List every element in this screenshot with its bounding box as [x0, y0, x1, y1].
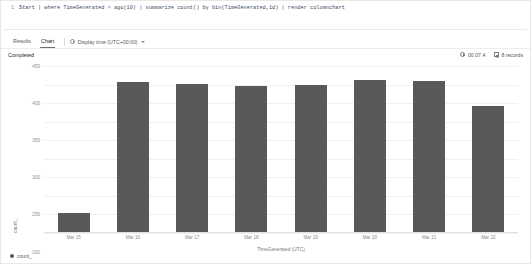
- legend-marker-icon: [10, 254, 14, 258]
- clock-icon: [460, 52, 465, 57]
- y-axis-tick-label: 350: [32, 138, 40, 143]
- records-stat: 8 records: [494, 52, 523, 58]
- bar[interactable]: [472, 106, 504, 232]
- line-number: 1: [6, 4, 14, 12]
- chart-container: count_ 450400350300250200150100500 Mar 1…: [0, 61, 531, 264]
- bar[interactable]: [58, 213, 90, 232]
- query-line[interactable]: 1 Start | where TimeGenerated > ago(10) …: [0, 4, 531, 12]
- plot-area: 450400350300250200150100500 Mar 15Mar 16…: [44, 66, 518, 233]
- x-axis-tick-label: Mar 17: [185, 235, 199, 240]
- query-editor[interactable]: 1 Start | where TimeGenerated > ago(10) …: [0, 0, 531, 30]
- y-axis-tick-label: 250: [32, 212, 40, 217]
- y-axis-tick-label: 300: [32, 175, 40, 180]
- timezone-label: Display time (UTC+00:00): [78, 39, 138, 45]
- x-axis-tick-label: Mar 19: [303, 235, 317, 240]
- x-axis-tick-label: Mar 15: [66, 235, 80, 240]
- y-axis-tick-label: 400: [32, 101, 40, 106]
- x-axis-line: [44, 232, 518, 233]
- duration-stat: 00:07.4: [460, 52, 485, 58]
- status-text: Completed: [8, 52, 34, 58]
- bar-slot: Mar 18: [222, 66, 281, 232]
- bar[interactable]: [354, 80, 386, 232]
- bar-slot: Mar 19: [281, 66, 340, 232]
- bar[interactable]: [176, 84, 208, 232]
- gridline: 0: [44, 233, 518, 234]
- bar-slot: Mar 21: [400, 66, 459, 232]
- bar-slot: Mar 15: [44, 66, 103, 232]
- bar-slot: Mar 20: [340, 66, 399, 232]
- chevron-down-icon[interactable]: [141, 41, 145, 43]
- y-axis-title: count_: [13, 66, 18, 233]
- records-value: 8 records: [501, 52, 523, 58]
- status-metrics: 00:07.4 8 records: [460, 52, 523, 58]
- bar-series: Mar 15Mar 16Mar 17Mar 18Mar 19Mar 20Mar …: [44, 66, 518, 232]
- bar[interactable]: [235, 86, 267, 232]
- query-results-panel: 1 Start | where TimeGenerated > ago(10) …: [0, 0, 531, 264]
- y-axis-tick-label: 200: [32, 249, 40, 254]
- x-axis-tick-label: Mar 22: [481, 235, 495, 240]
- tab-separator: [64, 38, 65, 46]
- results-tabbar: Results Chart Display time (UTC+00:00): [0, 35, 531, 48]
- x-axis-tick-label: Mar 18: [244, 235, 258, 240]
- bar[interactable]: [295, 85, 327, 232]
- bar-slot: Mar 17: [163, 66, 222, 232]
- editor-divider: [4, 29, 527, 30]
- x-axis-tick-label: Mar 20: [363, 235, 377, 240]
- x-axis-title: TimeGenerated (UTC): [44, 247, 518, 252]
- bar[interactable]: [413, 81, 445, 232]
- bar[interactable]: [117, 82, 149, 232]
- tab-chart[interactable]: Chart: [36, 35, 59, 48]
- y-axis-tick-label: 450: [32, 64, 40, 69]
- rows-icon: [494, 52, 499, 57]
- x-axis-tick-label: Mar 21: [422, 235, 436, 240]
- duration-value: 00:07.4: [468, 52, 485, 58]
- x-axis-tick-label: Mar 16: [126, 235, 140, 240]
- tab-results[interactable]: Results: [8, 35, 36, 48]
- chart-legend[interactable]: count_: [10, 253, 32, 259]
- timezone-picker[interactable]: Display time (UTC+00:00): [70, 39, 145, 45]
- status-row: Completed 00:07.4 8 records: [0, 49, 531, 60]
- bar-slot: Mar 22: [459, 66, 518, 232]
- info-icon: [70, 39, 75, 44]
- bar-slot: Mar 16: [103, 66, 162, 232]
- legend-label: count_: [17, 253, 32, 259]
- query-text[interactable]: Start | where TimeGenerated > ago(10) | …: [19, 4, 345, 12]
